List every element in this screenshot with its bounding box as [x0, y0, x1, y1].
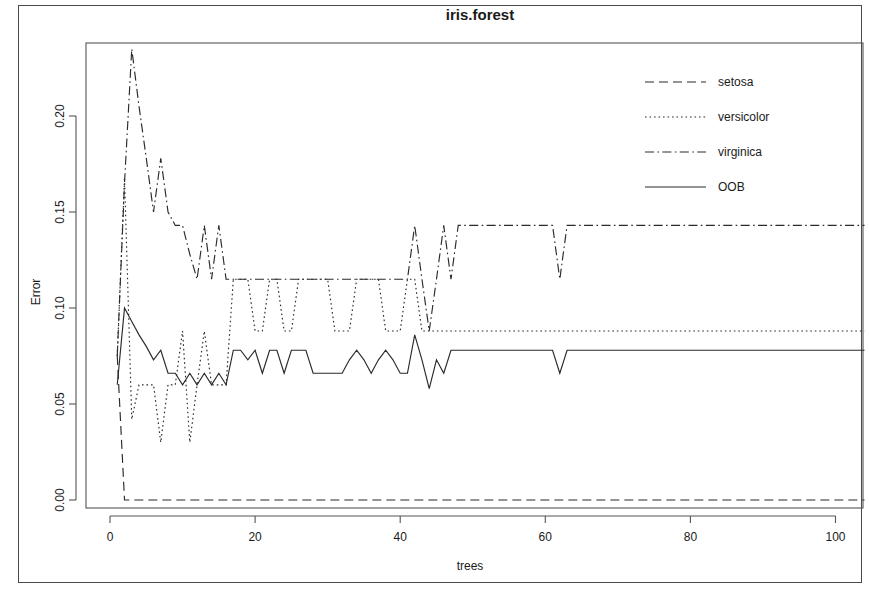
series-line-versicolor — [117, 177, 864, 442]
randomforest-error-plot: iris.forest 020406080100 0.000.050.100.1… — [0, 0, 869, 591]
y-tick-label: 0.05 — [53, 392, 67, 416]
series-line-setosa — [117, 356, 864, 500]
plot-page: : e ) . iris.forest 020406080100 0.000.0… — [0, 0, 869, 591]
x-tick-label: 100 — [825, 530, 845, 544]
x-tick-label: 20 — [248, 530, 262, 544]
legend: setosaversicolorvirginicaOOB — [645, 75, 769, 194]
x-axis: 020406080100 — [107, 516, 846, 544]
y-tick-label: 0.10 — [53, 296, 67, 320]
y-tick-label: 0.15 — [53, 200, 67, 224]
legend-label-setosa: setosa — [718, 75, 754, 89]
y-tick-label: 0.20 — [53, 104, 67, 128]
x-axis-title: trees — [457, 559, 484, 573]
y-axis-title: Error — [29, 279, 43, 306]
x-tick-label: 0 — [107, 530, 114, 544]
series-line-virginica — [117, 49, 864, 356]
y-axis: 0.000.050.100.150.20 — [53, 104, 76, 512]
y-tick-label: 0.00 — [53, 488, 67, 512]
x-tick-label: 40 — [394, 530, 408, 544]
plot-title: iris.forest — [446, 6, 514, 23]
x-tick-label: 80 — [684, 530, 698, 544]
legend-label-versicolor: versicolor — [718, 110, 769, 124]
legend-label-OOB: OOB — [718, 180, 745, 194]
legend-label-virginica: virginica — [718, 145, 762, 159]
series-line-OOB — [117, 308, 864, 389]
x-tick-label: 60 — [539, 530, 553, 544]
